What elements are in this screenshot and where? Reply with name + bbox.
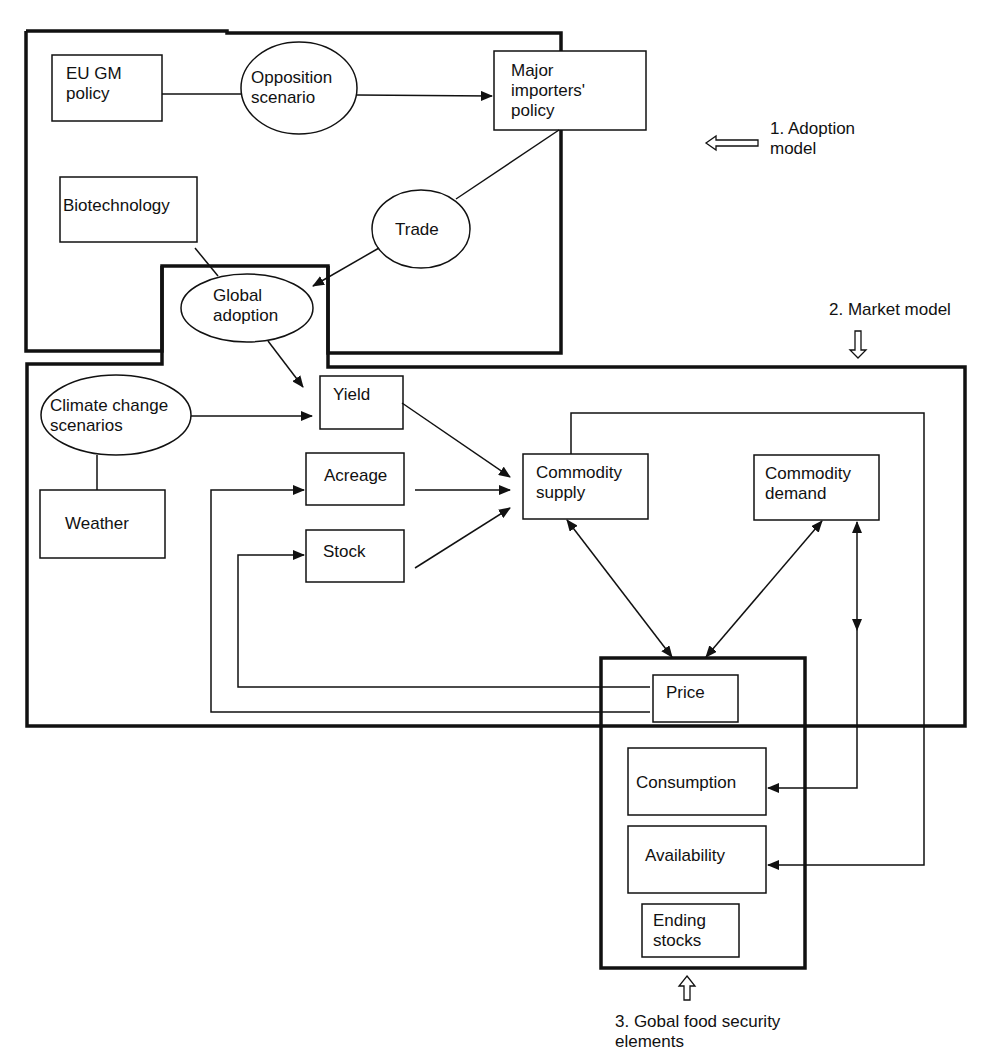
commodity-supply-label: Commodity supply [536,463,622,503]
biotechnology-label: Biotechnology [63,196,170,216]
biotech-to-global-adoption-line [195,248,218,276]
food-security-pointer-icon [679,976,695,1000]
trade-label: Trade [395,220,439,240]
weather-label: Weather [65,514,129,534]
eu-gm-policy-label: EU GM policy [66,64,122,104]
ending-stocks-label: Ending stocks [653,911,706,951]
demand-price-bidirectional [706,521,822,657]
price-label: Price [666,683,705,703]
stock-to-supply-arrow [415,508,510,568]
adoption-model-section-label: 1. Adoption model [770,119,855,159]
major-importers-policy-label: Major importers' policy [511,61,585,121]
market-model-section-label: 2. Market model [829,300,951,320]
commodity-demand-label: Commodity demand [765,464,851,504]
opposition-scenario-label: Opposition scenario [251,68,332,108]
importers-to-trade-line [456,130,559,199]
market-model-pointer-icon [850,331,866,358]
diagram-canvas [0,0,995,1061]
climate-change-label: Climate change scenarios [50,396,168,436]
opposition-to-importers-arrow [357,95,492,96]
food-security-section-label: 3. Gobal food security elements [615,1012,780,1052]
global-adoption-label: Global adoption [213,286,278,326]
stock-label: Stock [323,542,366,562]
adoption-model-pointer-icon [706,136,758,150]
consumption-label: Consumption [636,773,736,793]
yield-to-supply-arrow [402,403,510,477]
supply-price-bidirectional [567,520,672,657]
price-to-stock-path [238,555,650,687]
yield-label: Yield [333,385,370,405]
availability-label: Availability [645,846,725,866]
price-to-acreage-path [211,490,650,712]
demand-to-consumption-path [768,630,857,788]
acreage-label: Acreage [324,466,387,486]
global-adoption-to-yield-arrow [268,341,303,387]
